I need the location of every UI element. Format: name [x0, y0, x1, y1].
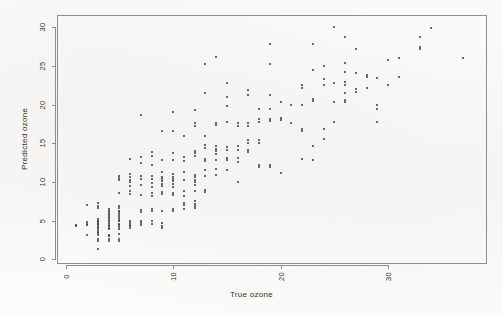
data-point	[183, 135, 185, 137]
data-point	[226, 149, 228, 151]
data-point	[280, 119, 282, 121]
data-point	[172, 111, 174, 113]
data-point	[172, 130, 174, 132]
data-point	[183, 156, 185, 158]
data-point	[430, 27, 432, 29]
data-point	[344, 71, 346, 73]
data-point	[172, 159, 174, 161]
y-axis-title: Predicted ozone	[20, 107, 29, 169]
data-point	[226, 96, 228, 98]
data-point	[183, 160, 185, 162]
data-point	[151, 210, 153, 212]
data-point	[194, 181, 196, 183]
data-point	[204, 63, 206, 65]
data-point	[108, 228, 110, 230]
data-point	[269, 108, 271, 110]
data-point	[258, 118, 260, 120]
data-point	[118, 179, 120, 181]
data-point	[226, 159, 228, 161]
data-point	[301, 158, 303, 160]
data-point	[151, 155, 153, 157]
data-point	[97, 248, 99, 250]
data-point	[161, 180, 163, 182]
data-point	[215, 174, 217, 176]
data-point	[226, 121, 228, 123]
data-point	[355, 48, 357, 50]
data-point	[161, 193, 163, 195]
data-point	[247, 142, 249, 144]
data-point	[269, 120, 271, 122]
data-point	[129, 227, 131, 229]
data-point	[258, 139, 260, 141]
y-tick-mark	[52, 259, 56, 260]
data-point	[419, 48, 421, 50]
data-point	[290, 122, 292, 124]
data-point	[376, 77, 378, 79]
data-point	[301, 87, 303, 89]
data-point	[172, 194, 174, 196]
data-point	[204, 147, 206, 149]
data-point	[151, 182, 153, 184]
data-point	[269, 63, 271, 65]
data-point	[237, 149, 239, 151]
data-point	[183, 204, 185, 206]
data-point	[129, 185, 131, 187]
data-point	[151, 164, 153, 166]
data-point	[129, 181, 131, 183]
data-point	[86, 234, 88, 236]
data-point	[226, 169, 228, 171]
data-point	[247, 94, 249, 96]
data-point	[366, 87, 368, 89]
data-point	[247, 151, 249, 153]
data-point	[129, 173, 131, 175]
data-point	[118, 228, 120, 230]
data-point	[247, 125, 249, 127]
data-point	[129, 190, 131, 192]
data-point	[204, 169, 206, 171]
x-tick-label: 30	[384, 272, 393, 281]
data-point	[194, 122, 196, 124]
data-point	[183, 190, 185, 192]
data-point	[323, 138, 325, 140]
data-point	[376, 108, 378, 110]
data-point	[312, 69, 314, 71]
data-point	[140, 114, 142, 116]
data-point	[344, 101, 346, 103]
data-point	[237, 157, 239, 159]
data-point	[355, 88, 357, 90]
data-point	[355, 91, 357, 93]
data-point	[215, 159, 217, 161]
data-point	[237, 161, 239, 163]
data-point	[258, 121, 260, 123]
y-tick-label: 30	[38, 20, 47, 34]
data-point	[172, 173, 174, 175]
y-tick-label: 0	[38, 252, 47, 266]
data-point	[161, 210, 163, 212]
data-point	[194, 184, 196, 186]
data-point	[151, 151, 153, 153]
data-point	[118, 233, 120, 235]
data-point	[140, 162, 142, 164]
data-point	[333, 101, 335, 103]
data-point	[226, 82, 228, 84]
data-point	[161, 171, 163, 173]
plot-data-area	[57, 15, 487, 264]
data-point	[129, 193, 131, 195]
data-point	[140, 184, 142, 186]
data-point	[215, 124, 217, 126]
data-point	[215, 168, 217, 170]
data-point	[258, 166, 260, 168]
data-point	[140, 175, 142, 177]
x-tick-mark	[388, 265, 389, 269]
data-point	[462, 57, 464, 59]
data-point	[108, 240, 110, 242]
data-point	[312, 100, 314, 102]
data-point	[376, 121, 378, 123]
data-point	[280, 101, 282, 103]
data-point	[151, 175, 153, 177]
data-point	[312, 159, 314, 161]
data-point	[323, 65, 325, 67]
data-point	[269, 94, 271, 96]
data-point	[183, 179, 185, 181]
data-point	[183, 195, 185, 197]
